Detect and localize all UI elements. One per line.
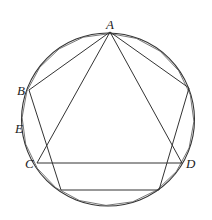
label-E: E [14, 121, 23, 136]
segment-AR [110, 32, 189, 88]
segment-BP4 [29, 90, 61, 190]
segments [29, 32, 189, 190]
segment-AC [37, 32, 110, 163]
label-A: A [105, 17, 114, 32]
label-C: C [25, 156, 34, 171]
inscribed-polygon [22, 34, 194, 206]
segment-AB [29, 32, 110, 90]
geometry-diagram: A B E C D [0, 0, 212, 220]
label-B: B [17, 83, 25, 98]
circumscribed-circle [22, 33, 195, 206]
label-D: D [185, 156, 196, 171]
segment-AD [110, 32, 182, 163]
